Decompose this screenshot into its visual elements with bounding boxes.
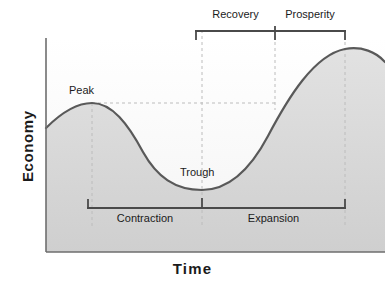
prosperity-label: Prosperity	[275, 9, 345, 20]
business-cycle-chart	[0, 0, 385, 283]
peak-label: Peak	[69, 85, 94, 96]
contraction-label: Contraction	[88, 213, 202, 224]
trough-label: Trough	[180, 167, 214, 178]
phase-bracket-top	[196, 27, 345, 39]
expansion-label: Expansion	[202, 213, 345, 224]
x-axis-title: Time	[0, 261, 385, 276]
recovery-label: Recovery	[196, 9, 275, 20]
y-axis-title: Economy	[20, 110, 35, 182]
business-cycle-figure: Economy Time Peak Trough Recovery Prospe…	[0, 0, 385, 283]
